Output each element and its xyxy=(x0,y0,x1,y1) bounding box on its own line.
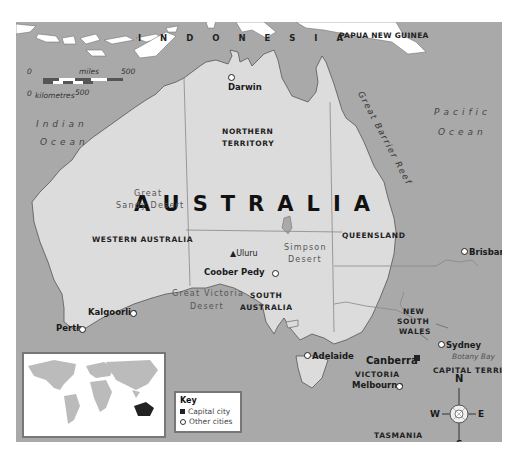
uluru-marker: ▲Uluru xyxy=(230,250,258,258)
botany-bay-leader xyxy=(436,324,448,328)
state-label-qld: QUEENSLAND xyxy=(342,232,405,240)
desert-great-sandy-1: Great xyxy=(134,190,162,198)
state-label-sa-1: SOUTH xyxy=(250,292,282,300)
state-label-tas: TASMANIA xyxy=(374,432,423,440)
compass-s: S xyxy=(456,440,462,442)
state-label-nsw-1: NEW xyxy=(403,308,424,316)
desert-simpson-1: Simpson xyxy=(284,244,327,252)
scale-miles-max: 500 xyxy=(121,68,135,76)
world-inset-map xyxy=(22,352,166,438)
city-marker-kalgoorlie xyxy=(130,310,137,317)
botany-bay-label: Botany Bay xyxy=(452,353,495,361)
state-label-vic: VICTORIA xyxy=(355,371,400,379)
state-label-nsw-2: SOUTH xyxy=(397,318,429,326)
city-marker-sydney xyxy=(438,341,445,348)
scale-miles-zero: 0 xyxy=(27,68,32,76)
city-label-canberra: Canberra xyxy=(366,356,418,366)
scale-bar: 0 miles 500 0 kilometres 500 xyxy=(23,70,143,110)
desert-victoria-1: Great Victoria xyxy=(172,290,244,298)
desert-simpson-2: Desert xyxy=(288,256,322,264)
capital-marker-canberra xyxy=(414,355,420,361)
compass-icon xyxy=(434,384,484,442)
city-marker-melbourne xyxy=(396,383,403,390)
key-capital-label: Capital city xyxy=(188,407,230,416)
key-row-other: Other cities xyxy=(180,417,236,426)
scale-bar-graphic xyxy=(43,78,133,88)
desert-great-sandy-2: Sandy Desert xyxy=(116,202,184,210)
city-label-sydney: Sydney xyxy=(446,341,481,350)
australia-highlight xyxy=(134,402,154,416)
ocean-label-indian-1: Indian xyxy=(36,120,88,129)
country-label-indonesia: I N D O N E S I A xyxy=(138,34,351,43)
compass-rose: N S E W xyxy=(434,384,484,442)
compass-w: W xyxy=(430,410,440,419)
state-label-nsw-3: WALES xyxy=(399,328,431,336)
key-row-capital: Capital city xyxy=(180,407,236,416)
country-label-png: PAPUA NEW GUINEA xyxy=(339,32,429,40)
city-label-coober-pedy: Coober Pedy xyxy=(204,268,265,277)
ocean-label-indian-2: Ocean xyxy=(40,138,89,147)
state-label-act: CAPITAL TERRITORY xyxy=(433,367,502,375)
square-icon xyxy=(180,409,185,414)
city-marker-adelaide xyxy=(304,352,311,359)
circle-icon xyxy=(180,419,186,425)
city-marker-perth xyxy=(79,326,86,333)
desert-victoria-2: Desert xyxy=(190,303,224,311)
city-label-darwin: Darwin xyxy=(228,83,262,92)
uluru-label: Uluru xyxy=(236,249,258,258)
city-marker-coober-pedy xyxy=(272,270,279,277)
compass-e: E xyxy=(478,410,484,419)
key-title: Key xyxy=(180,396,236,405)
world-map-icon xyxy=(24,354,164,436)
city-marker-brisbane xyxy=(461,248,468,255)
state-label-nt-1: NORTHERN xyxy=(222,128,273,136)
ocean-label-pacific-2: Ocean xyxy=(438,128,487,137)
scale-km-label: kilometres xyxy=(35,92,75,100)
state-label-wa: WESTERN AUSTRALIA xyxy=(92,236,193,244)
map-key: Key Capital city Other cities xyxy=(174,391,242,433)
compass-n: N xyxy=(455,374,463,384)
city-label-brisbane: Brisbane xyxy=(469,248,502,257)
key-other-label: Other cities xyxy=(189,417,232,426)
scale-km-max: 500 xyxy=(75,89,89,97)
city-label-adelaide: Adelaide xyxy=(312,352,354,361)
city-marker-darwin xyxy=(228,74,235,81)
state-label-sa-2: AUSTRALIA xyxy=(240,304,293,312)
state-label-nt-2: TERRITORY xyxy=(222,140,274,148)
ocean-label-pacific-1: Pacific xyxy=(434,108,491,117)
scale-km-zero: 0 xyxy=(27,90,32,98)
scale-miles-label: miles xyxy=(79,68,99,76)
